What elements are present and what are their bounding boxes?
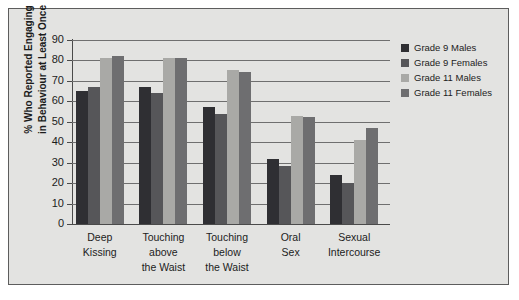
y-axis-tick-mark bbox=[67, 60, 72, 61]
y-axis-tick-label: 50 bbox=[40, 116, 64, 127]
y-axis-tick-mark bbox=[67, 40, 72, 41]
y-axis-tick-mark bbox=[67, 204, 72, 205]
bar bbox=[76, 91, 88, 224]
x-axis-category-label: SexualIntercourse bbox=[309, 230, 399, 260]
bar bbox=[342, 183, 354, 224]
x-axis-category-label-line: Sexual bbox=[309, 230, 399, 245]
plot-area bbox=[72, 40, 390, 224]
bar bbox=[227, 70, 239, 224]
y-axis-tick-mark bbox=[67, 163, 72, 164]
y-axis-tick-label: 20 bbox=[40, 177, 64, 188]
legend-item: Grade 11 Males bbox=[401, 72, 513, 83]
chart-figure: % Who Reported Engaging in Behaviour at … bbox=[0, 0, 519, 300]
bar bbox=[279, 166, 291, 224]
bar-group bbox=[330, 40, 378, 224]
y-axis-tick-mark bbox=[67, 101, 72, 102]
y-axis-tick-label: 80 bbox=[40, 54, 64, 65]
x-axis-category-label-line: Intercourse bbox=[309, 245, 399, 260]
legend-swatch-icon bbox=[401, 59, 409, 67]
legend-swatch-icon bbox=[401, 74, 409, 82]
y-axis-tick-label: 30 bbox=[40, 157, 64, 168]
bar bbox=[139, 87, 151, 224]
bar-group bbox=[203, 40, 251, 224]
bar bbox=[330, 175, 342, 224]
bar-group bbox=[267, 40, 315, 224]
bar bbox=[291, 116, 303, 224]
y-axis-tick-label: 60 bbox=[40, 95, 64, 106]
bar bbox=[215, 114, 227, 224]
y-axis-tick-mark bbox=[67, 142, 72, 143]
y-axis-title-line-1: % Who Reported Engaging bbox=[22, 0, 36, 165]
bar bbox=[163, 58, 175, 224]
bar bbox=[112, 56, 124, 224]
y-axis-tick-label: 70 bbox=[40, 75, 64, 86]
legend-item: Grade 11 Females bbox=[401, 87, 513, 98]
x-axis-category-label-line: the Waist bbox=[182, 260, 272, 275]
y-axis-tick-label: 0 bbox=[40, 218, 64, 229]
bar bbox=[354, 140, 366, 224]
bar bbox=[88, 87, 100, 224]
bar bbox=[175, 58, 187, 224]
y-axis-tick-mark bbox=[67, 224, 72, 225]
bar bbox=[100, 58, 112, 224]
legend-swatch-icon bbox=[401, 44, 409, 52]
legend-item: Grade 9 Females bbox=[401, 57, 513, 68]
bar-group bbox=[76, 40, 124, 224]
legend-swatch-icon bbox=[401, 89, 409, 97]
y-axis-tick-mark bbox=[67, 81, 72, 82]
legend-item-label: Grade 11 Males bbox=[414, 73, 481, 83]
y-axis-tick-label: 10 bbox=[40, 198, 64, 209]
bar bbox=[203, 107, 215, 224]
bar bbox=[366, 128, 378, 224]
y-axis-tick-label: 40 bbox=[40, 136, 64, 147]
y-axis-tick-mark bbox=[67, 183, 72, 184]
legend-item-label: Grade 11 Females bbox=[414, 88, 492, 98]
bar bbox=[239, 72, 251, 224]
bar bbox=[303, 117, 315, 224]
x-axis-line bbox=[72, 224, 390, 225]
y-axis-tick-mark bbox=[67, 122, 72, 123]
bar-group bbox=[139, 40, 187, 224]
legend-item: Grade 9 Males bbox=[401, 42, 513, 53]
chart-legend: Grade 9 MalesGrade 9 FemalesGrade 11 Mal… bbox=[401, 42, 513, 102]
legend-item-label: Grade 9 Males bbox=[414, 43, 476, 53]
y-axis-tick-label: 90 bbox=[40, 34, 64, 45]
legend-item-label: Grade 9 Females bbox=[414, 58, 487, 68]
bar bbox=[151, 93, 163, 224]
bar bbox=[267, 159, 279, 224]
